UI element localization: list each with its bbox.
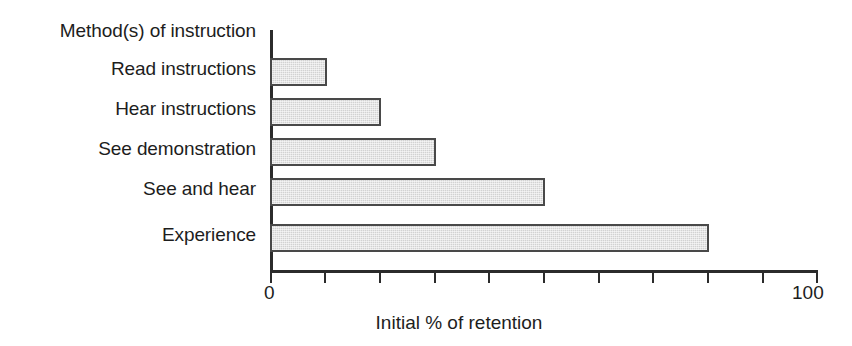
x-axis-tick-50 bbox=[543, 273, 545, 283]
x-axis-tick-60 bbox=[598, 273, 600, 283]
category-label-hear-instructions: Hear instructions bbox=[0, 98, 256, 120]
bar-chart: Method(s) of instruction Read instructio… bbox=[0, 0, 852, 346]
category-label-see-demonstration: See demonstration bbox=[0, 138, 256, 160]
x-axis-tick-80 bbox=[707, 273, 709, 283]
x-axis-title: Initial % of retention bbox=[0, 312, 852, 334]
x-axis-tick-40 bbox=[488, 273, 490, 283]
x-axis-tick-30 bbox=[434, 273, 436, 283]
x-axis-tick-70 bbox=[652, 273, 654, 283]
chart-title: Method(s) of instruction bbox=[0, 20, 256, 42]
category-label-read-instructions: Read instructions bbox=[0, 58, 256, 80]
category-label-experience: Experience bbox=[0, 224, 256, 246]
bar-hear-instructions[interactable] bbox=[270, 98, 381, 126]
category-label-see-and-hear: See and hear bbox=[0, 178, 256, 200]
bar-see-and-hear[interactable] bbox=[270, 178, 545, 206]
bar-read-instructions[interactable] bbox=[270, 58, 327, 86]
x-axis-label-min: 0 bbox=[264, 282, 275, 304]
x-axis-tick-10 bbox=[324, 273, 326, 283]
x-axis-tick-20 bbox=[379, 273, 381, 283]
plot-area bbox=[264, 30, 834, 278]
bar-see-demonstration[interactable] bbox=[270, 138, 436, 166]
x-axis-label-max: 100 bbox=[792, 282, 824, 304]
bar-experience[interactable] bbox=[270, 224, 709, 252]
category-label-column: Method(s) of instruction Read instructio… bbox=[0, 0, 256, 300]
x-axis-tick-90 bbox=[762, 273, 764, 283]
